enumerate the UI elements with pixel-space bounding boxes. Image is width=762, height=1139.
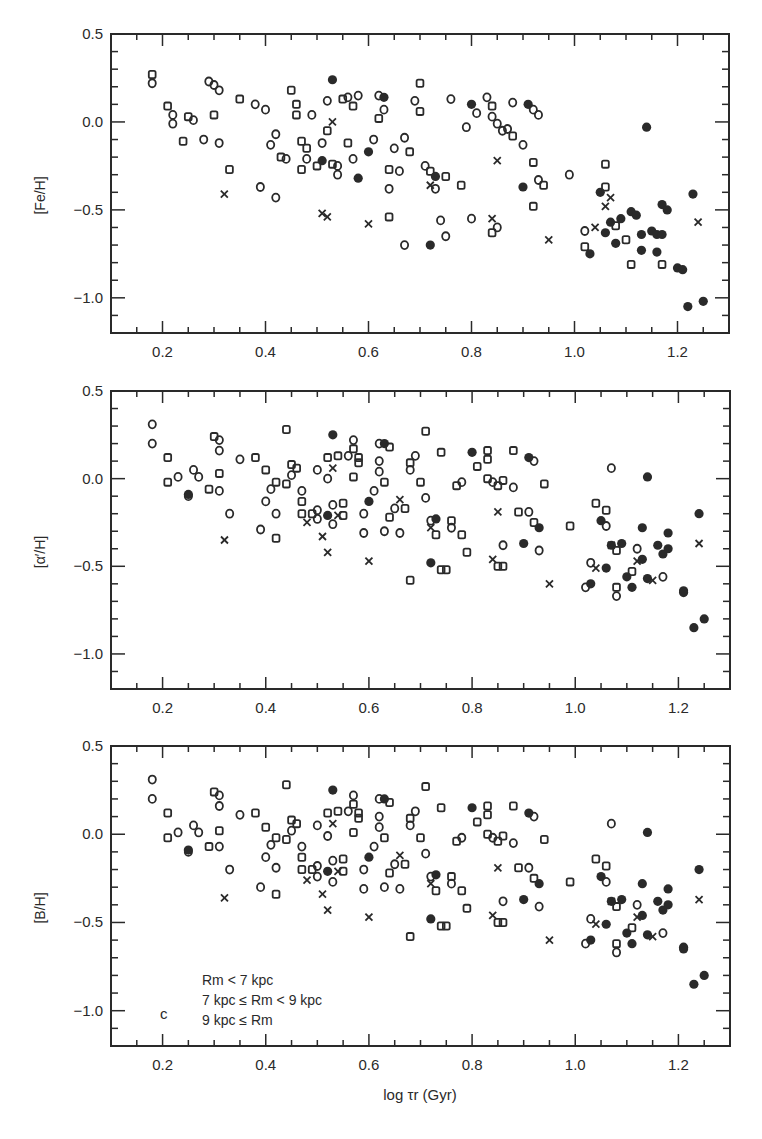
- point-open-square: [510, 802, 517, 809]
- point-open-circle: [603, 522, 610, 530]
- point-filled-circle: [653, 897, 662, 906]
- point-cross: [489, 556, 496, 563]
- point-open-square: [489, 229, 496, 236]
- x-tick-label: 1.0: [564, 343, 585, 360]
- x-axis-label: log τr (Gyr): [383, 1086, 456, 1103]
- point-open-square: [252, 809, 259, 816]
- point-filled-circle: [431, 514, 440, 523]
- point-filled-circle: [699, 297, 708, 306]
- point-filled-circle: [637, 230, 646, 239]
- point-open-circle: [370, 843, 377, 851]
- point-filled-circle: [426, 914, 435, 923]
- x-tick-label: 0.6: [358, 343, 379, 360]
- point-open-circle: [437, 216, 444, 224]
- point-open-circle: [401, 241, 408, 249]
- point-open-square: [283, 836, 290, 843]
- point-cross: [329, 820, 336, 827]
- point-filled-circle: [364, 147, 373, 156]
- point-open-circle: [272, 510, 279, 518]
- point-cross: [696, 540, 703, 547]
- point-open-circle: [376, 813, 383, 821]
- point-open-square: [324, 127, 331, 134]
- point-open-square: [298, 166, 305, 173]
- point-filled-circle: [694, 509, 703, 518]
- point-open-square: [458, 531, 465, 538]
- point-filled-circle: [622, 572, 631, 581]
- plot-frame: [111, 391, 730, 689]
- scatter-panel-3: 0.20.40.60.81.01.20.50.0−0.5−1.0[B/H]: [32, 737, 730, 1073]
- point-open-circle: [468, 215, 475, 223]
- point-open-square: [659, 261, 666, 268]
- point-open-circle: [329, 520, 336, 528]
- point-filled-circle: [379, 93, 388, 102]
- point-filled-circle: [467, 100, 476, 109]
- point-open-square: [567, 878, 574, 885]
- point-open-square: [613, 903, 620, 910]
- point-open-square: [484, 802, 491, 809]
- point-open-circle: [370, 136, 377, 144]
- point-open-square: [458, 182, 465, 189]
- point-open-circle: [442, 232, 449, 240]
- point-cross: [365, 914, 372, 921]
- point-open-square: [216, 827, 223, 834]
- point-open-square: [417, 80, 424, 87]
- point-filled-circle: [664, 884, 673, 893]
- point-open-circle: [370, 487, 377, 495]
- point-open-square: [407, 577, 414, 584]
- point-filled-circle: [519, 895, 528, 904]
- point-open-square: [206, 843, 213, 850]
- point-open-square: [464, 549, 471, 556]
- point-filled-circle: [643, 828, 652, 837]
- x-tick-label: 0.2: [152, 343, 173, 360]
- point-open-circle: [149, 776, 156, 784]
- point-cross: [365, 220, 372, 227]
- point-open-square: [298, 498, 305, 505]
- point-open-circle: [349, 155, 356, 163]
- y-axis-label: [B/H]: [32, 892, 48, 923]
- point-open-circle: [149, 420, 156, 428]
- point-filled-circle: [364, 497, 373, 506]
- point-open-square: [602, 161, 609, 168]
- point-filled-circle: [596, 516, 605, 525]
- point-open-square: [474, 818, 481, 825]
- point-cross: [319, 891, 326, 898]
- point-cross: [489, 215, 496, 222]
- point-cross: [546, 580, 553, 587]
- x-tick-label: 1.0: [565, 1056, 586, 1073]
- point-open-square: [407, 933, 414, 940]
- scatter-panel-2: 0.20.40.60.81.01.20.50.0−0.5−1.0[α′/H]: [32, 382, 730, 716]
- point-open-circle: [396, 885, 403, 893]
- point-open-circle: [149, 79, 156, 87]
- point-open-square: [422, 428, 429, 435]
- point-open-square: [211, 111, 218, 118]
- point-open-square: [216, 470, 223, 477]
- point-open-square: [629, 568, 636, 575]
- point-open-square: [381, 479, 388, 486]
- point-open-circle: [324, 832, 331, 840]
- point-open-circle: [499, 541, 506, 549]
- point-open-circle: [381, 883, 388, 891]
- point-filled-circle: [617, 895, 626, 904]
- point-open-circle: [634, 545, 641, 553]
- point-filled-circle: [328, 430, 337, 439]
- point-open-square: [402, 505, 409, 512]
- point-open-square: [603, 507, 610, 514]
- point-open-square: [613, 584, 620, 591]
- y-tick-label: −1.0: [73, 1002, 103, 1019]
- point-open-circle: [314, 821, 321, 829]
- point-open-circle: [447, 95, 454, 103]
- point-cross: [695, 219, 702, 226]
- point-open-circle: [329, 857, 336, 865]
- point-cross: [696, 896, 703, 903]
- scatter-panel-1: 0.20.40.60.81.01.20.50.0−0.5−1.0[Fe/H]: [32, 25, 729, 360]
- point-open-square: [402, 861, 409, 868]
- point-open-circle: [314, 873, 321, 881]
- point-filled-circle: [642, 123, 651, 132]
- point-open-square: [613, 547, 620, 554]
- point-filled-circle: [467, 448, 476, 457]
- point-open-circle: [350, 791, 357, 799]
- point-open-square: [350, 473, 357, 480]
- y-axis-label: [α′/H]: [32, 536, 48, 569]
- point-open-circle: [174, 473, 181, 481]
- point-filled-circle: [683, 302, 692, 311]
